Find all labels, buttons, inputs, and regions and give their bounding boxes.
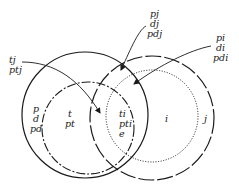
label-pdj: pdj [147,29,162,39]
callout-tj: tj ptj [9,55,22,75]
region-left-outer: p d pd [30,104,42,134]
label-j: j [204,114,207,124]
label-e: e [119,129,125,139]
venn-diagram [0,0,239,190]
label-pd: pd [30,124,42,134]
region-t-only: t pt [65,109,75,129]
label-pdi: pdi [213,53,228,63]
label-i: i [165,114,168,124]
callout-pj: pj dj pdj [147,9,162,39]
pj-arrow [121,26,146,70]
label-ptj: ptj [9,65,22,75]
callout-pi: pi di pdi [213,33,228,63]
region-center: ti pti e [119,109,132,139]
label-pt: pt [65,119,75,129]
j-long-dash-circle [90,56,214,180]
